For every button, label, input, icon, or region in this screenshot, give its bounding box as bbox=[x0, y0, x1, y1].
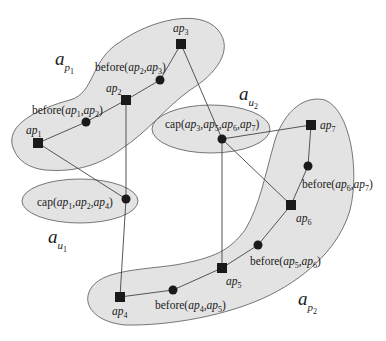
node-before-ap1-ap2 bbox=[82, 118, 91, 127]
diagram-canvas: ap1 ap2 ap3 ap4 ap5 ap6 ap7 before(ap1,a… bbox=[0, 0, 386, 341]
node-before-ap2-ap3 bbox=[156, 76, 165, 85]
node-ap6 bbox=[286, 200, 296, 210]
node-ap3 bbox=[176, 39, 186, 49]
node-before-ap6-ap7 bbox=[304, 162, 313, 171]
region-label-ap1: ap1 bbox=[55, 48, 74, 76]
node-ap1 bbox=[33, 138, 43, 148]
node-ap5 bbox=[217, 263, 227, 273]
node-cap-ap1-ap2-ap4 bbox=[122, 195, 131, 204]
node-ap7 bbox=[306, 120, 316, 130]
region-label-au2: au2 bbox=[239, 83, 258, 111]
region-label-au1: au1 bbox=[48, 226, 67, 254]
node-ap2 bbox=[121, 95, 131, 105]
node-cap-ap3-ap5-ap6-ap7 bbox=[218, 135, 227, 144]
node-before-ap4-ap5 bbox=[169, 286, 178, 295]
node-before-ap5-ap6 bbox=[254, 241, 263, 250]
region-label-ap2: ap2 bbox=[298, 288, 317, 316]
node-ap4 bbox=[115, 292, 125, 302]
